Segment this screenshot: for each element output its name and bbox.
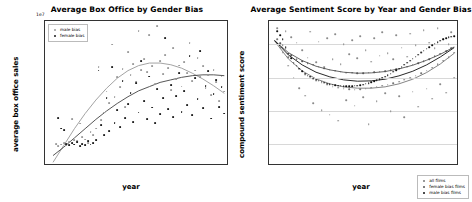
scatter-point [124, 106, 126, 108]
scatter-point [215, 79, 217, 81]
scatter-point [440, 53, 442, 55]
scatter-point [370, 61, 372, 63]
scatter-point [173, 116, 175, 118]
chart-title-sentiment: Average Sentiment Score by Year and Gend… [236, 5, 472, 14]
scatter-point [95, 128, 97, 130]
scatter-point [365, 88, 367, 90]
scatter-point [221, 87, 223, 89]
scatter-point [279, 34, 281, 36]
scatter-point [437, 63, 439, 65]
scatter-point [127, 51, 129, 53]
scatter-point [453, 35, 455, 37]
scatter-point [143, 100, 145, 102]
scatter-point [412, 91, 414, 93]
scatter-point [170, 84, 172, 86]
scatter-point [445, 37, 447, 39]
y-tick-mark [268, 77, 269, 78]
scatter-point [197, 98, 199, 100]
scatter-point [340, 63, 342, 65]
legend-marker-icon [423, 186, 425, 188]
scatter-point [340, 85, 342, 87]
scatter-point [379, 78, 381, 80]
legend-label: female bias [60, 33, 84, 39]
scatter-point [100, 124, 102, 126]
y-tick-mark [44, 79, 45, 80]
scatter-point [63, 129, 65, 131]
scatter-point [154, 122, 156, 124]
scatter-point [326, 83, 328, 85]
scatter-point [343, 85, 345, 87]
scatter-point [451, 32, 453, 34]
x-axis-label-box-office: year [0, 183, 236, 191]
scatter-point [415, 56, 417, 58]
scatter-point [357, 72, 359, 74]
scatter-point [116, 109, 118, 111]
scatter-point [207, 71, 209, 73]
scatter-point [60, 144, 62, 146]
scatter-point [181, 86, 183, 88]
scatter-point [207, 74, 209, 76]
scatter-point [74, 144, 76, 146]
scatter-point [279, 46, 281, 48]
scatter-point [76, 141, 78, 143]
scatter-point [218, 100, 220, 102]
scatter-point [221, 76, 223, 78]
scatter-point [167, 67, 169, 69]
scatter-point [146, 71, 148, 73]
y-tick-mark [44, 96, 45, 97]
x-tick-mark [393, 164, 394, 165]
scatter-point [423, 50, 425, 52]
scatter-point [74, 140, 76, 142]
y-tick-mark [44, 164, 45, 165]
scatter-point [368, 72, 370, 74]
scatter-point [140, 60, 142, 62]
scatter-point [437, 28, 439, 30]
scatter-point [186, 72, 188, 74]
scatter-point [111, 66, 113, 68]
scatter-point [223, 113, 225, 115]
scatter-point [395, 34, 397, 36]
scatter-point [426, 70, 428, 72]
scatter-point [398, 68, 400, 70]
scatter-point [60, 128, 62, 130]
scatter-point [357, 85, 359, 87]
scatter-point [301, 70, 303, 72]
scatter-point [343, 43, 345, 45]
scatter-point [63, 142, 65, 144]
scatter-point [370, 81, 372, 83]
scatter-point [213, 69, 215, 71]
scatter-point [103, 134, 105, 136]
scatter-point [146, 119, 148, 121]
scatter-point [307, 62, 309, 64]
scatter-point [321, 81, 323, 83]
scatter-point [406, 62, 408, 64]
scatter-point [373, 71, 375, 73]
scatter-point [318, 66, 320, 68]
legend-item[interactable]: male bias films [421, 190, 465, 196]
scatter-point [390, 69, 392, 71]
scatter-point [429, 46, 431, 48]
panel-box-office: Average Box Office by Gender Bias 1e7 av… [0, 0, 236, 202]
scatter-point [409, 33, 411, 35]
scatter-point [453, 77, 455, 79]
scatter-point [312, 64, 314, 66]
legend-item[interactable]: female bias [52, 33, 84, 39]
scatter-point [448, 56, 450, 58]
scatter-point [409, 60, 411, 62]
scatter-point [282, 38, 284, 40]
scatter-point [290, 57, 292, 59]
scatter-point [376, 79, 378, 81]
scatter-point [406, 56, 408, 58]
scatter-point [205, 85, 207, 87]
legend-sentiment: all filmsfemale bias filmsmale bias film… [417, 175, 469, 199]
scatter-point [290, 36, 292, 38]
scatter-point [276, 30, 278, 32]
x-tick-mark [112, 164, 113, 165]
scatter-point [346, 72, 348, 74]
scatter-point [138, 30, 140, 32]
scatter-point [218, 106, 220, 108]
scatter-point [191, 80, 193, 82]
scatter-point [348, 85, 350, 87]
x-tick-mark [165, 164, 166, 165]
scatter-point [310, 31, 312, 33]
